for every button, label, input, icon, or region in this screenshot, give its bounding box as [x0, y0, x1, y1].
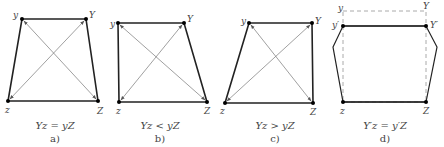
label-Y-c: Y: [315, 16, 322, 26]
vertex-z-b: [117, 100, 121, 104]
hexagon-d: [333, 26, 437, 102]
vertex-Y-c: [310, 21, 314, 25]
diagonal-arrow-a-1: [10, 21, 84, 99]
dashed-rectangle-d: [343, 11, 426, 102]
phasor-diagram-figure: y Y z Z Yz = yZ a) y Y z Z Yz < yZ b) y …: [0, 0, 444, 147]
caption-c: c): [270, 133, 280, 144]
label-Z-b: Z: [203, 106, 211, 116]
label-Y-prime-d: Y′: [430, 20, 438, 30]
label-Z-d: Z: [422, 106, 430, 116]
equation-c: Yz > yZ: [255, 120, 295, 131]
equation-b: Yz < yZ: [140, 120, 180, 131]
vertex-z-d: [341, 100, 345, 104]
label-z-c: z: [219, 106, 225, 116]
label-Y-b: Y: [187, 14, 194, 24]
label-Y-a: Y: [89, 10, 96, 20]
vertex-Z-d: [424, 100, 428, 104]
label-Z-c: Z: [309, 107, 317, 117]
panel-c: y Y z Z Yz > yZ c): [219, 16, 322, 144]
vertex-Y-a: [84, 17, 88, 21]
label-Z-a: Z: [96, 106, 104, 116]
diagonal-arrow-a-2: [24, 21, 96, 99]
vertex-Z-c: [311, 101, 315, 105]
diagonal-arrow-b-2: [120, 25, 205, 100]
label-z-b: z: [115, 106, 121, 116]
vertex-y-a: [20, 17, 24, 21]
vertex-y-prime-d: [341, 24, 345, 28]
label-y-c: y: [240, 16, 247, 26]
diagonal-arrow-c-1: [227, 25, 310, 101]
quadrilateral-a: [8, 19, 98, 101]
panel-b: y Y z Z Yz < yZ b): [109, 14, 211, 144]
vertex-y-c: [247, 21, 251, 25]
equation-d: Y′z = y′Z: [363, 120, 408, 131]
label-y-prime-d: y′: [331, 20, 339, 30]
caption-b: b): [155, 133, 165, 144]
vertex-Y-b: [182, 21, 186, 25]
vertex-Y-prime-d: [424, 24, 428, 28]
label-y-d: y: [337, 3, 344, 13]
diagonal-arrow-b-1: [121, 25, 182, 100]
label-y-b: y: [109, 19, 116, 29]
label-z-d: z: [339, 106, 345, 116]
equation-a: Yz = yZ: [35, 120, 75, 131]
vertex-z-c: [223, 101, 227, 105]
vertex-Z-b: [205, 100, 209, 104]
caption-d: d): [380, 133, 390, 144]
caption-a: a): [50, 133, 60, 144]
label-y-a: y: [12, 10, 19, 20]
label-z-a: z: [4, 105, 10, 115]
panel-a: y Y z Z Yz = yZ a): [4, 10, 104, 144]
panel-d: y Y y′ Y′ z Z Y′z = y′Z d): [331, 1, 438, 144]
vertex-y-b: [116, 21, 120, 25]
vertex-Z-a: [96, 99, 100, 103]
label-Y-d: Y: [423, 1, 430, 11]
diagonal-arrow-c-2: [251, 25, 311, 101]
vertex-z-a: [6, 99, 10, 103]
